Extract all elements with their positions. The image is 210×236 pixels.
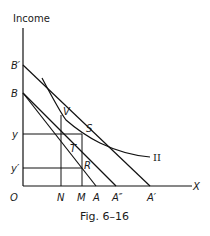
- label-y-prime: y′: [10, 163, 20, 174]
- label-s: S: [86, 123, 93, 134]
- label-a-double: A″: [111, 192, 123, 203]
- label-y: y: [11, 129, 19, 140]
- label-b-prime: B′: [11, 60, 21, 71]
- label-a-prime: A′: [146, 192, 157, 203]
- label-v: V: [63, 106, 71, 117]
- label-t: T: [70, 143, 77, 154]
- line-b-a: [23, 93, 96, 186]
- label-m: M: [77, 192, 86, 203]
- label-a: A: [92, 192, 100, 203]
- label-origin: O: [10, 192, 18, 203]
- y-axis-label: Income: [13, 13, 50, 24]
- label-n: N: [57, 192, 65, 203]
- label-r: R: [84, 160, 91, 171]
- curve-label-ii: II: [153, 152, 161, 163]
- label-b: B: [11, 88, 18, 99]
- figure-caption: Fig. 6–16: [80, 210, 129, 223]
- label-x: X: [192, 181, 201, 192]
- indifference-curve-ii: [42, 78, 150, 157]
- diagram: Income B′ B y y′ O N M A A″ A′ X V S T R…: [0, 0, 210, 236]
